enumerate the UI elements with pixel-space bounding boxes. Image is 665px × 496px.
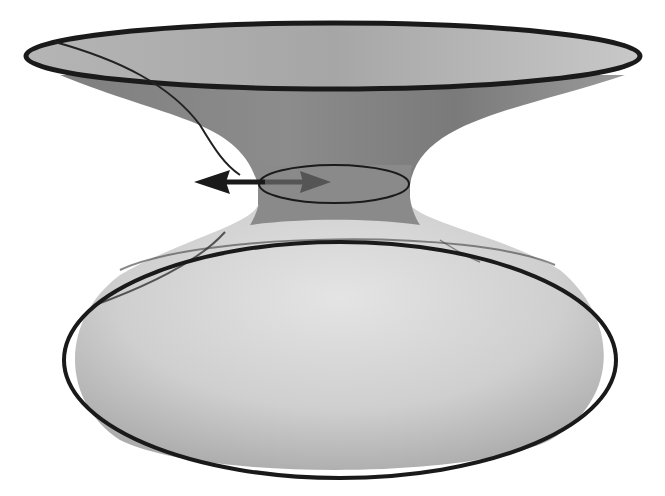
wormhole-svg	[0, 0, 665, 496]
wormhole-diagram	[0, 0, 665, 496]
lower-flare	[75, 205, 604, 470]
arrow-left-head	[194, 170, 230, 194]
